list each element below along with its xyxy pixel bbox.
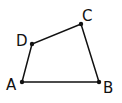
vertex-d-point	[30, 42, 34, 46]
quadrilateral-abcd	[22, 24, 99, 82]
vertex-c-label: C	[82, 7, 92, 25]
vertex-b-label: B	[103, 79, 113, 97]
vertex-b-point	[97, 80, 101, 84]
quadrilateral-diagram: ABCD	[0, 0, 122, 103]
vertex-a-label: A	[6, 76, 17, 94]
vertex-a-point	[20, 80, 24, 84]
vertex-d-label: D	[16, 32, 28, 50]
